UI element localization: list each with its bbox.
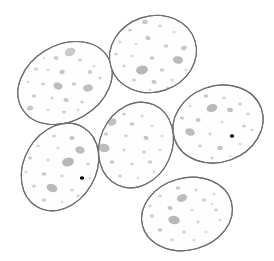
speckle [28,156,32,159]
speckle [150,214,154,217]
speckle [149,89,152,91]
speckle [61,201,64,203]
speckle [142,150,146,153]
speckle [222,97,225,100]
speckle [34,67,38,70]
speckle [80,101,84,104]
speckle [184,69,187,72]
speckle [72,82,76,85]
speckle [214,208,218,211]
speckle [218,219,221,222]
speckle [42,172,47,176]
speckle [41,83,45,86]
speckle [32,184,36,187]
speckle [62,110,66,113]
speckle [148,160,152,163]
speckle [104,132,108,135]
speckle [170,239,174,242]
speckle [78,58,82,61]
egg-outline [162,73,274,176]
speckle [135,43,138,45]
speckle [242,124,246,127]
speckle [182,230,186,233]
speckle [172,31,175,34]
speckle [192,239,195,242]
speckle [170,79,173,82]
speckle [130,55,133,58]
speckle [130,122,135,126]
speckle [229,155,232,157]
speckle [158,25,162,28]
illustration-canvas [0,0,274,261]
egg-bottom-left [6,109,114,225]
speckle [118,174,122,177]
speckle [161,135,164,137]
speckle [43,57,46,59]
speckle [118,41,121,44]
speckled-eggs-illustration [0,0,274,261]
speckle [80,176,84,179]
speckle [60,175,63,178]
speckle [191,209,194,211]
speckle [128,28,132,31]
speckle [46,159,50,162]
speckle [50,97,53,100]
speckle [137,177,140,179]
speckle [196,221,199,224]
speckle [130,163,134,166]
speckle [202,198,206,201]
speckle [140,115,143,118]
speckle [250,129,253,132]
egg-right [162,73,274,176]
speckle [158,194,162,197]
speckle [188,105,191,108]
speckle [150,125,153,128]
speckle [114,52,118,55]
speckle [124,135,128,138]
speckle [194,189,197,192]
speckle [220,121,223,124]
speckle [150,56,155,60]
speckle [204,94,209,98]
speckle [27,81,30,83]
speckle [132,78,136,81]
speckle [42,198,46,201]
speckle [70,189,74,192]
speckle [46,109,49,112]
speckle [77,109,80,111]
speckle [152,171,155,174]
speckle [98,77,102,80]
speckle [46,69,49,72]
speckle [211,203,214,205]
speckle [114,107,117,110]
speckle [158,149,161,152]
speckle [122,149,125,152]
speckle [86,162,90,165]
egg-top-center [99,4,206,103]
speckle [76,195,79,198]
speckle [160,68,164,71]
speckle [88,70,93,74]
speckle [239,143,242,145]
speckle [36,145,39,148]
speckle [158,228,163,232]
speckle [24,171,27,174]
speckle [195,118,200,122]
speckle [110,160,115,164]
speckle [57,147,60,149]
speckle [205,231,208,233]
speckle [122,112,126,115]
speckle [176,186,181,190]
speckle [210,157,214,160]
speckle [32,94,37,98]
speckle [164,44,168,47]
speckle [238,102,242,105]
speckle [212,193,215,196]
speckle [198,144,202,147]
speckle [148,205,152,208]
speckle [92,65,95,68]
speckle [52,134,56,137]
speckle [230,134,234,137]
speckle [246,113,250,116]
speckle [89,177,92,179]
